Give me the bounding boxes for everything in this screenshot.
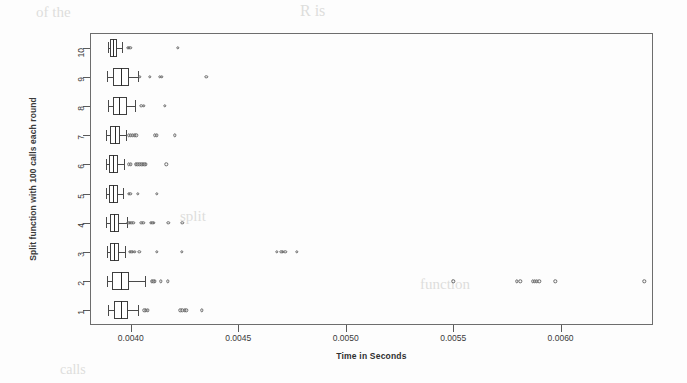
whisker-low-cap <box>106 188 107 199</box>
outlier-point <box>135 133 138 136</box>
outlier-point <box>537 279 540 282</box>
median-line <box>115 126 116 144</box>
outlier-point <box>142 104 145 107</box>
whisker-low-cap <box>108 305 109 316</box>
median-line <box>121 301 122 319</box>
outlier-point <box>142 221 145 224</box>
outlier-point <box>148 75 151 78</box>
whisker-low-cap <box>106 159 107 170</box>
whisker-high-cap <box>122 42 123 53</box>
y-axis-tick-label: 1 <box>77 310 86 332</box>
whisker-high-cap <box>124 159 125 170</box>
whisker-low-cap <box>107 246 108 257</box>
x-axis-tick-label: 0.0055 <box>440 334 466 343</box>
outlier-point <box>146 309 149 312</box>
y-axis-tick-label: 10 <box>77 48 86 70</box>
outlier-point <box>155 133 158 136</box>
x-axis-title: Time in Seconds <box>90 351 653 361</box>
whisker-low-cap <box>106 130 107 141</box>
x-axis-tick-label: 0.0050 <box>333 334 359 343</box>
whisker-high-line <box>128 310 139 311</box>
outlier-point <box>643 279 646 282</box>
outlier-point <box>163 104 166 107</box>
median-line <box>121 272 122 290</box>
whisker-low-cap <box>108 100 109 111</box>
outlier-point <box>133 250 136 253</box>
median-line <box>121 68 122 86</box>
y-axis-tick-label: 6 <box>77 164 86 186</box>
figure-canvas: of the R is split function calls Split f… <box>0 0 687 383</box>
ghost-text: R is <box>300 2 325 20</box>
y-axis-tick-label: 3 <box>77 252 86 274</box>
ghost-text: calls <box>60 362 86 378</box>
whisker-high-line <box>129 281 145 282</box>
outlier-point <box>152 221 155 224</box>
y-axis-tick-label: 9 <box>77 77 86 99</box>
median-line <box>114 214 115 232</box>
outlier-point <box>129 46 132 49</box>
x-axis-tick <box>453 325 454 332</box>
outlier-point <box>160 75 163 78</box>
outlier-point <box>144 163 147 166</box>
outlier-point <box>153 279 156 282</box>
whisker-low-cap <box>108 42 109 53</box>
whisker-high-cap <box>123 188 124 199</box>
median-line <box>113 39 114 57</box>
box-iqr <box>113 97 127 115</box>
y-axis-tick-label: 2 <box>77 281 86 303</box>
whisker-low-cap <box>107 71 108 82</box>
outlier-point <box>295 250 298 253</box>
y-axis-title: Split function with 100 calls each round <box>26 33 40 325</box>
outlier-point <box>180 250 183 253</box>
y-axis-tick-label: 8 <box>77 106 86 128</box>
outlier-point <box>136 192 139 195</box>
plot-panel: 0.00400.00450.00500.00550.00601234567891… <box>90 33 653 325</box>
outlier-point <box>155 192 158 195</box>
outlier-point <box>138 75 141 78</box>
whisker-high-cap <box>145 276 146 287</box>
median-line <box>113 185 114 203</box>
outlier-point <box>159 279 162 282</box>
outlier-point <box>275 250 278 253</box>
outlier-point <box>129 163 132 166</box>
outlier-point <box>155 250 158 253</box>
y-axis-tick-label: 4 <box>77 223 86 245</box>
median-line <box>114 243 115 261</box>
whisker-high-cap <box>138 305 139 316</box>
x-axis-tick <box>131 325 132 332</box>
x-axis-tick-label: 0.0045 <box>225 334 251 343</box>
outlier-point <box>451 279 454 282</box>
whisker-high-cap <box>125 246 126 257</box>
outlier-point <box>138 250 141 253</box>
median-line <box>113 155 114 173</box>
outlier-point <box>554 279 557 282</box>
outlier-point <box>181 221 184 224</box>
y-axis-tick-label: 5 <box>77 194 86 216</box>
x-axis-tick-label: 0.0040 <box>118 334 144 343</box>
outlier-point <box>129 192 132 195</box>
x-axis-tick <box>561 325 562 332</box>
outlier-point <box>165 163 168 166</box>
median-line <box>119 97 120 115</box>
whisker-low-cap <box>107 276 108 287</box>
ghost-text: of the <box>36 4 71 21</box>
outlier-point <box>200 309 203 312</box>
x-axis-tick-label: 0.0060 <box>548 334 574 343</box>
outlier-point <box>132 221 135 224</box>
outlier-point <box>166 279 169 282</box>
y-axis-title-text: Split function with 100 calls each round <box>28 97 38 261</box>
outlier-point <box>205 75 208 78</box>
outlier-point <box>518 279 521 282</box>
whisker-high-cap <box>135 100 136 111</box>
x-axis-tick <box>238 325 239 332</box>
whisker-high-line <box>129 77 138 78</box>
outlier-point <box>167 221 170 224</box>
whisker-high-line <box>127 106 135 107</box>
outlier-point <box>283 250 286 253</box>
outlier-point <box>185 309 188 312</box>
outlier-point <box>176 46 179 49</box>
whisker-low-cap <box>106 217 107 228</box>
outlier-point <box>173 133 176 136</box>
y-axis-tick-label: 7 <box>77 135 86 157</box>
x-axis-tick <box>346 325 347 332</box>
